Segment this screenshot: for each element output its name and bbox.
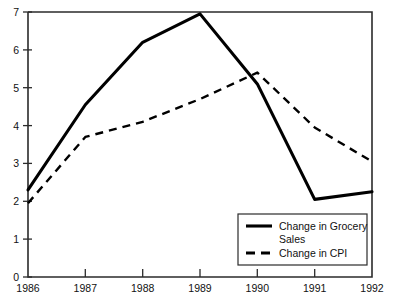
y-axis-label-6: 6 xyxy=(13,44,19,56)
y-axis-label-7: 7 xyxy=(13,6,19,18)
y-axis-label-2: 2 xyxy=(13,195,19,207)
x-axis-label-1991: 1991 xyxy=(303,282,327,294)
series-line-change-in-cpi xyxy=(28,73,372,204)
x-axis-label-1986: 1986 xyxy=(16,282,40,294)
series-line-change-in-grocery-sales xyxy=(28,14,372,200)
line-chart: 7 6 5 4 3 2 1 0 1986 1987 1988 1989 1990… xyxy=(0,0,395,304)
y-axis-label-4: 4 xyxy=(13,120,19,132)
legend-label-grocery-line2: Sales xyxy=(279,233,305,245)
x-axis-label-1988: 1988 xyxy=(131,282,155,294)
y-axis-label-3: 3 xyxy=(13,157,19,169)
chart-container: 7 6 5 4 3 2 1 0 1986 1987 1988 1989 1990… xyxy=(0,0,395,304)
x-axis-label-1992: 1992 xyxy=(360,282,384,294)
legend-label-cpi: Change in CPI xyxy=(279,247,347,259)
x-axis-label-1987: 1987 xyxy=(74,282,98,294)
y-axis-label-5: 5 xyxy=(13,82,19,94)
y-axis-labels: 7 6 5 4 3 2 1 0 xyxy=(13,6,19,283)
x-axis-labels: 1986 1987 1988 1989 1990 1991 1992 xyxy=(16,282,384,294)
legend-label-grocery-line1: Change in Grocery xyxy=(279,220,368,232)
x-axis-label-1990: 1990 xyxy=(246,282,270,294)
x-axis-label-1989: 1989 xyxy=(188,282,212,294)
chart-legend: Change in Grocery Sales Change in CPI xyxy=(238,214,368,265)
x-axis-ticks xyxy=(85,269,314,277)
y-axis-label-1: 1 xyxy=(13,233,19,245)
